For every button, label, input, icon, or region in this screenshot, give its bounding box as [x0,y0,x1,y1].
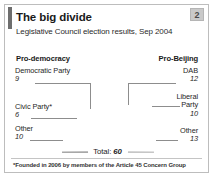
label-other-right-value: 13 [180,135,198,143]
label-other-right: Other 13 [180,127,198,144]
chart-title: The big divide [16,11,92,23]
column-header-pro-democracy: Pro-democracy [16,54,70,63]
footnote: *Founded in 2006 by members of the Artic… [13,162,200,168]
label-civic-party: Civic Party* 6 [15,103,52,120]
label-civic-party-name: Civic Party* [15,102,52,111]
total-value: 60 [113,147,121,156]
half-donut-svg [60,101,156,153]
label-civic-party-value: 6 [15,111,52,119]
label-liberal-party-value: 10 [177,110,199,118]
leader-line-other-left [30,140,63,141]
chart-card: 2 The big divide Legislative Council ele… [4,4,209,173]
label-democratic-party-value: 9 [15,75,70,83]
label-dab: DAB 12 [183,67,198,84]
label-democratic-party: Democratic Party 9 [15,67,70,84]
half-donut-chart [60,101,156,153]
footnote-divider [11,158,202,159]
total-text: Total: [93,147,111,156]
accent-bar [8,7,12,29]
total-label: Total: 60 [5,147,210,156]
column-header-pro-beijing: Pro-Beijing [159,54,198,63]
label-other-left-value: 10 [15,133,33,141]
chart-number-badge: 2 [190,8,204,21]
label-democratic-party-name: Democratic Party [15,66,70,75]
chart-subtitle: Legislative Council election results, Se… [16,27,172,36]
label-other-left: Other 10 [15,125,33,142]
leader-line-other-right [156,140,178,141]
label-dab-value: 12 [183,75,198,83]
label-liberal-party: Liberal Party 10 [177,93,199,118]
leader-line-dab [128,83,176,84]
